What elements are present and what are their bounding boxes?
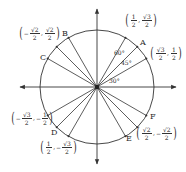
x-fraction: √32: [22, 111, 32, 126]
point-label-f: F: [150, 113, 156, 121]
y-numerator: √3: [62, 140, 72, 148]
point-45deg: [136, 46, 138, 48]
y-fraction: √22: [162, 126, 172, 141]
comma: ,: [167, 50, 169, 56]
y-numerator: √3: [142, 13, 152, 21]
x-fraction: √32: [156, 46, 166, 61]
y-denominator: 2: [165, 134, 169, 141]
point-label-e: E: [126, 135, 132, 143]
x-denominator: 2: [159, 54, 163, 61]
right-paren: ): [49, 111, 53, 126]
x-sign: −: [16, 116, 21, 122]
x-denominator: 2: [33, 34, 37, 41]
y-sign: −: [56, 145, 61, 151]
x-sign: −: [24, 31, 29, 37]
x-fraction: √22: [30, 26, 40, 41]
y-sign: −: [156, 131, 161, 137]
point-135deg: [56, 46, 58, 48]
point-30deg: [145, 58, 147, 60]
x-numerator: √2: [142, 126, 152, 134]
y-sign: −: [36, 116, 41, 122]
y-numerator: √2: [162, 126, 172, 134]
point-330deg: [145, 115, 147, 117]
point-240deg: [68, 135, 70, 137]
angle-label-30: 30°: [109, 78, 120, 84]
y-numerator: √2: [45, 26, 55, 34]
x-numerator: √3: [156, 46, 166, 54]
right-paren: ): [173, 126, 177, 141]
y-denominator: 2: [43, 119, 47, 126]
x-numerator: 1: [46, 140, 52, 148]
x-numerator: 1: [131, 13, 137, 21]
y-fraction: 12: [171, 46, 177, 61]
left-paren: (: [150, 46, 154, 61]
coordinate-label: ( − √22 , √22 ): [18, 26, 61, 41]
x-denominator: 2: [25, 119, 29, 126]
comma: ,: [41, 30, 43, 36]
point-150deg: [47, 58, 49, 60]
right-paren: ): [153, 13, 157, 28]
right-paren: ): [178, 46, 182, 61]
coordinate-label: ( √22 , − √22 ): [135, 126, 178, 141]
unit-circle-diagram: 60° 45° 30° A B C D E F ( 12 , √32 ) ( √…: [0, 0, 186, 172]
point-label-a: A: [140, 39, 146, 47]
coordinate-label: ( − √32 , − 12 ): [10, 111, 54, 126]
x-denominator: 2: [145, 134, 149, 141]
comma: ,: [53, 144, 55, 150]
coordinate-label: ( 12 , − √32 ): [39, 140, 78, 155]
y-fraction: 12: [42, 111, 48, 126]
comma: ,: [153, 130, 155, 136]
point-label-b: B: [62, 30, 68, 38]
y-denominator: 2: [172, 54, 176, 61]
right-paren: ): [56, 26, 60, 41]
left-paren: (: [19, 26, 23, 41]
y-denominator: 2: [48, 34, 52, 41]
x-fraction: 12: [46, 140, 52, 155]
x-fraction: 12: [131, 13, 137, 28]
angle-label-45: 45°: [121, 60, 132, 66]
left-paren: (: [125, 13, 129, 28]
coordinate-label: ( √32 , 12 ): [149, 46, 183, 61]
left-paren: (: [136, 126, 140, 141]
point-label-d: D: [51, 129, 57, 137]
point-label-c: C: [40, 54, 46, 62]
coordinate-label: ( 12 , √32 ): [124, 13, 158, 28]
y-numerator: 1: [171, 46, 177, 54]
point-60deg: [125, 37, 127, 39]
x-denominator: 2: [132, 21, 136, 28]
x-fraction: √22: [142, 126, 152, 141]
y-fraction: √32: [62, 140, 72, 155]
y-denominator: 2: [145, 21, 149, 28]
left-paren: (: [40, 140, 44, 155]
y-numerator: 1: [42, 111, 48, 119]
x-numerator: √3: [22, 111, 32, 119]
comma: ,: [138, 17, 140, 23]
comma: ,: [33, 115, 35, 121]
y-denominator: 2: [65, 148, 69, 155]
y-fraction: √22: [45, 26, 55, 41]
origin-point: [95, 85, 99, 89]
angle-label-60: 60°: [114, 50, 125, 56]
right-paren: ): [73, 140, 77, 155]
left-paren: (: [11, 111, 15, 126]
x-denominator: 2: [47, 148, 51, 155]
x-numerator: √2: [30, 26, 40, 34]
y-fraction: √32: [142, 13, 152, 28]
